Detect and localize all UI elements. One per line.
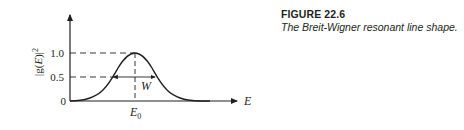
y-axis-label: |g(E)|2 [31, 48, 45, 76]
ytick-label-0: 0 [61, 95, 67, 107]
width-label: W [141, 79, 152, 93]
figure-number: FIGURE 22.6 [281, 8, 458, 21]
figure-title: The Breit-Wigner resonant line shape. [281, 21, 458, 34]
ytick-label-1: 1.0 [50, 47, 64, 59]
x-axis-label: E [243, 94, 252, 108]
center-energy-label: E0 [129, 105, 141, 121]
figure-caption: FIGURE 22.6 The Breit-Wigner resonant li… [281, 8, 458, 34]
breit-wigner-plot: 1.0 0.5 0 |g(E)|2 E E0 W [0, 0, 280, 130]
ytick-label-05: 0.5 [50, 71, 64, 83]
